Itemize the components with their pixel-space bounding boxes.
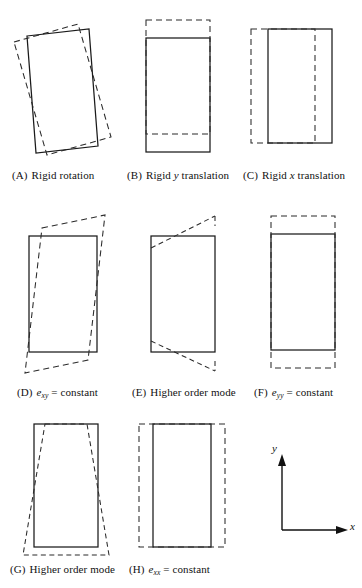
x-axis-arrowhead: [336, 526, 348, 534]
deformation-modes-figure: (A)Rigid rotation (B)Rigid y translation…: [0, 0, 362, 588]
panel-g-label: Higher order mode: [30, 563, 115, 575]
coordinate-axes: y x: [272, 448, 358, 538]
rotated-rectangle: [14, 24, 111, 155]
panel-e-tag: (E): [132, 386, 146, 398]
normal-strain-exx-diagram: [133, 418, 243, 558]
x-axis-label: x: [350, 520, 355, 532]
caption-panel-a: (A)Rigid rotation: [12, 169, 94, 181]
shear-exy-diagram: [12, 208, 122, 373]
panel-h-tag: (H): [129, 563, 145, 575]
y-axis-label: y: [272, 442, 277, 454]
bottom-deformed-edge: [151, 341, 215, 371]
panel-d-label: exy = constant: [37, 386, 98, 398]
sheared-shape: [25, 215, 105, 373]
reference-rectangle: [271, 234, 335, 350]
top-deformed-edge: [151, 216, 215, 248]
rigid-x-translation-diagram: [248, 18, 358, 166]
translated-rectangle: [251, 29, 315, 143]
caption-panel-c: (C)Rigid x translation: [243, 169, 345, 181]
caption-panel-h: (H)exx = constant: [129, 563, 210, 575]
panel-normal-strain-exx: [133, 418, 243, 558]
higher-order-mode-2-diagram: [15, 418, 125, 558]
panel-b-label: Rigid y translation: [146, 169, 229, 181]
panel-rigid-rotation: [10, 18, 120, 166]
caption-panel-e: (E)Higher order mode: [132, 386, 236, 398]
panel-a-tag: (A): [12, 169, 28, 181]
caption-panel-d: (D)exy = constant: [17, 386, 98, 398]
y-axis-arrowhead: [278, 454, 286, 466]
panel-c-label: Rigid x translation: [262, 169, 345, 181]
panel-g-tag: (G): [10, 563, 26, 575]
reference-rectangle: [27, 29, 98, 153]
panel-f-label: eyy = constant: [272, 386, 333, 398]
panel-shear-exy: [12, 208, 122, 373]
caption-panel-f: (F)eyy = constant: [254, 386, 333, 398]
panel-rigid-y-translation: [130, 18, 230, 166]
panel-b-tag: (B): [127, 169, 142, 181]
panel-h-label: exx = constant: [149, 563, 210, 575]
panel-f-tag: (F): [254, 386, 268, 398]
reference-rectangle: [151, 236, 215, 352]
panel-higher-order-mode-1: [138, 208, 248, 373]
reference-rectangle: [268, 29, 332, 143]
caption-panel-g: (G)Higher order mode: [10, 563, 115, 575]
panel-e-label: Higher order mode: [150, 386, 235, 398]
trapezoid-deformed-shape: [23, 424, 109, 555]
reference-rectangle: [34, 424, 98, 547]
panel-d-tag: (D): [17, 386, 33, 398]
reference-rectangle: [153, 424, 211, 547]
coordinate-axes-diagram: [272, 448, 358, 538]
caption-panel-b: (B)Rigid y translation: [127, 169, 229, 181]
stretched-rectangle: [271, 216, 335, 368]
stretched-rectangle: [139, 424, 225, 547]
rigid-y-translation-diagram: [130, 18, 230, 166]
higher-order-mode-1-diagram: [138, 208, 248, 373]
panel-normal-strain-eyy: [258, 208, 362, 373]
rigid-rotation-diagram: [10, 18, 120, 166]
panel-a-label: Rigid rotation: [32, 169, 95, 181]
panel-rigid-x-translation: [248, 18, 358, 166]
panel-c-tag: (C): [243, 169, 258, 181]
panel-higher-order-mode-2: [15, 418, 125, 558]
reference-rectangle: [146, 38, 210, 152]
normal-strain-eyy-diagram: [258, 208, 362, 373]
translated-rectangle: [146, 20, 210, 134]
